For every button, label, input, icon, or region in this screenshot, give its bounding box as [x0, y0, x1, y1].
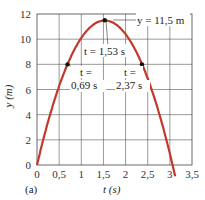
grid	[37, 14, 192, 165]
t2-value-label: 2,37 s	[116, 79, 142, 91]
x-tick-label: 2	[123, 168, 129, 180]
y-tick-label: 10	[20, 33, 32, 45]
x-tick-label: 0	[34, 168, 40, 180]
x-axis-label: t (s)	[103, 183, 121, 196]
x-tick-label: 1,5	[97, 168, 111, 180]
panel-label: (a)	[25, 183, 38, 196]
y-tick-label: 6	[26, 84, 32, 96]
t1-eq-label: t =	[80, 66, 92, 78]
peak-time-label: t = 1,53 s	[84, 45, 125, 57]
y-tick-label: 0	[26, 159, 32, 171]
y-tick-labels: 024681012	[20, 8, 32, 171]
y-tick-label: 8	[26, 58, 32, 70]
trajectory-curve	[37, 21, 175, 177]
y-axis-label: y (m)	[2, 84, 15, 108]
trajectory-chart: 00,511,522,533,5 024681012 y = 11,5 m t …	[0, 0, 205, 200]
x-tick-label: 0,5	[52, 168, 66, 180]
max-height-label: y = 11,5 m	[137, 14, 185, 26]
t1-value-label: 0,69 s	[71, 79, 97, 91]
y-tick-label: 4	[26, 109, 32, 121]
peak-leader-line	[106, 21, 108, 46]
data-point-marker	[65, 62, 69, 66]
x-tick-label: 3	[167, 168, 173, 180]
t2-eq-label: t =	[124, 66, 136, 78]
y-tick-label: 12	[20, 8, 31, 20]
y-tick-label: 2	[26, 134, 32, 146]
x-tick-label: 2,5	[141, 168, 155, 180]
x-tick-label: 1	[79, 168, 85, 180]
x-tick-label: 3,5	[185, 168, 199, 180]
